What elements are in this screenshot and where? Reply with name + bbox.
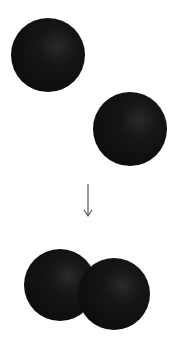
- before-state: [11, 18, 167, 166]
- down-arrow-icon: [84, 184, 92, 216]
- sphere-2: [93, 92, 167, 166]
- merged-sphere-right: [78, 258, 150, 330]
- after-state: [24, 249, 150, 330]
- sphere-1: [11, 18, 85, 92]
- diagram-canvas: [0, 0, 176, 341]
